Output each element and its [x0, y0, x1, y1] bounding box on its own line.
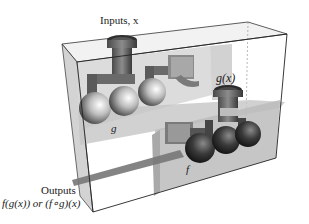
outputs-label: Outputs: [41, 184, 76, 196]
g-machine-label: g: [111, 122, 117, 134]
outputs-expression-label: f(g(x)) or (f∘g)(x): [2, 197, 80, 209]
g-of-x-label: g(x): [216, 72, 235, 84]
inputs-label: Inputs, x: [100, 14, 139, 26]
f-machine-label: f: [186, 163, 189, 175]
